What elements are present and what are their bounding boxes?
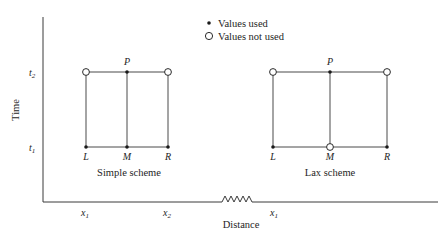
lax-p-used-icon: [328, 70, 332, 74]
tick-x1-right: x1: [269, 207, 278, 220]
simple-label-r: R: [164, 151, 171, 162]
used-dot-icon: [207, 21, 211, 25]
legend-used-label: Values used: [218, 18, 269, 29]
simple-p-used-icon: [125, 70, 129, 74]
simple-label-l: L: [82, 151, 89, 162]
lax-scheme-title: Lax scheme: [305, 167, 356, 178]
simple-tr-not-used-icon: [165, 69, 172, 76]
lax-scheme: P L M R Lax scheme: [269, 56, 390, 178]
x-axis-label: Distance: [223, 219, 260, 230]
simple-scheme: P L M R Simple scheme: [82, 56, 171, 178]
not-used-circle-icon: [205, 32, 212, 39]
simple-r-used-icon: [166, 145, 170, 149]
simple-l-used-icon: [84, 145, 88, 149]
simple-label-p: P: [123, 56, 130, 67]
lax-label-l: L: [269, 151, 276, 162]
lax-r-used-icon: [385, 145, 389, 149]
simple-scheme-title: Simple scheme: [97, 167, 161, 178]
simple-label-m: M: [122, 151, 132, 162]
lax-m-not-used-icon: [327, 144, 334, 151]
legend: Values used Values not used: [205, 18, 284, 42]
lax-label-p: P: [326, 56, 333, 67]
axis-break-zigzag: [222, 196, 257, 202]
lax-tr-not-used-icon: [384, 69, 391, 76]
lax-tl-not-used-icon: [270, 69, 277, 76]
tick-x2: x2: [162, 207, 171, 220]
lax-l-used-icon: [271, 145, 275, 149]
tick-x1-left: x1: [80, 207, 89, 220]
y-axis-label: Time: [10, 99, 21, 121]
axes: Time t2 t1 x1 x2 x1 Distance: [10, 17, 438, 230]
tick-t1: t1: [29, 142, 35, 155]
legend-not-used-label: Values not used: [218, 31, 285, 42]
tick-t2: t2: [29, 67, 36, 80]
simple-m-used-icon: [125, 145, 129, 149]
simple-tl-not-used-icon: [83, 69, 90, 76]
lax-label-m: M: [325, 151, 335, 162]
lax-label-r: R: [383, 151, 390, 162]
stencil-diagram: Values used Values not used Time t2 t1 x…: [0, 0, 448, 244]
